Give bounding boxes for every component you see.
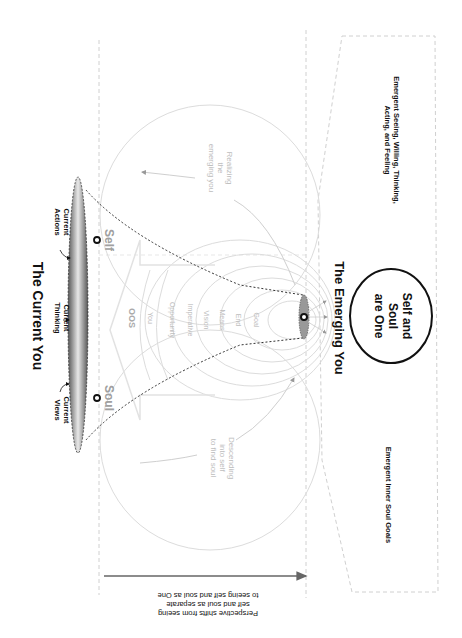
svg-text:You: You	[147, 312, 154, 324]
svg-text:Acting, and Feeling: Acting, and Feeling	[383, 105, 392, 175]
svg-text:Self and: Self and	[400, 293, 414, 340]
realizing-arrow	[142, 172, 195, 178]
inner-label-opportunity: Opportunity	[168, 302, 176, 339]
svg-text:Views: Views	[53, 399, 62, 420]
label-current-views: Current Views	[53, 396, 71, 424]
svg-text:OOS: OOS	[127, 308, 137, 328]
svg-text:Perspective shifts from seeing: Perspective shifts from seeing	[158, 609, 258, 618]
title-emerging-you: The Emerging You	[332, 261, 347, 375]
label-realizing: Realizing the emerging you	[207, 144, 234, 192]
svg-text:End: End	[235, 314, 242, 327]
svg-text:Self: Self	[102, 229, 116, 252]
emergent-bottom-label: Emergent Inner Soul Goals	[384, 447, 393, 543]
descending-arrow	[140, 455, 197, 463]
svg-text:The Current You: The Current You	[30, 262, 46, 370]
inner-label-vision: Vision	[203, 311, 210, 330]
actions-pointer-icon	[60, 250, 70, 258]
svg-text:Current: Current	[62, 396, 71, 424]
svg-text:Soul: Soul	[386, 303, 400, 329]
inner-label-end: End	[235, 314, 242, 327]
svg-text:Current: Current	[62, 304, 71, 332]
self-marker	[94, 237, 100, 243]
svg-text:emerging you: emerging you	[207, 144, 216, 192]
svg-text:are One: are One	[372, 294, 386, 339]
svg-text:Emergent Inner Soul Goals: Emergent Inner Soul Goals	[384, 447, 393, 543]
label-soul: Soul	[102, 385, 116, 411]
svg-text:into self: into self	[218, 444, 227, 472]
label-current-actions: Current Actions	[53, 208, 71, 236]
descending-arrow-lower	[236, 378, 294, 440]
label-current-thinking: Current Thinking	[53, 302, 71, 334]
svg-text:The Emerging You: The Emerging You	[332, 261, 347, 375]
svg-text:self and soul as separate: self and soul as separate	[166, 600, 249, 609]
label-descending: Descending into self to find soul	[209, 437, 236, 479]
label-self: Self	[102, 229, 116, 252]
svg-text:Current: Current	[62, 208, 71, 236]
svg-text:Opportunity: Opportunity	[168, 302, 176, 339]
u-process-diagram: The Current You Current Actions Current …	[0, 0, 462, 638]
svg-text:to find soul: to find soul	[209, 439, 218, 478]
svg-text:Vision: Vision	[203, 311, 210, 330]
svg-text:Thinking: Thinking	[53, 302, 62, 334]
inner-label-you: You	[147, 312, 154, 324]
svg-text:the: the	[216, 162, 225, 174]
inner-label-imperative: Imperative	[186, 304, 194, 337]
inner-label-goal: Goal	[253, 313, 260, 328]
emergent-top-label: Emergent Seeing, Willing, Thinking, Acti…	[383, 76, 401, 203]
svg-text:to seeing self and soul as One: to seeing self and soul as One	[158, 591, 259, 600]
svg-text:Soul: Soul	[102, 385, 116, 411]
soul-marker	[94, 395, 100, 401]
emerging-rays	[308, 301, 327, 333]
svg-text:Goal: Goal	[253, 313, 260, 328]
title-current-you: The Current You	[30, 262, 46, 370]
funnel-line-self	[86, 190, 303, 295]
inner-label-oos: OOS	[127, 308, 137, 328]
svg-text:Descending: Descending	[227, 437, 236, 479]
svg-text:Means: Means	[219, 309, 226, 331]
svg-text:Actions: Actions	[53, 208, 62, 236]
perspective-label: Perspective shifts from seeing self and …	[158, 591, 259, 618]
svg-text:Emergent Seeing, Willing, Thin: Emergent Seeing, Willing, Thinking,	[392, 76, 401, 203]
svg-text:Imperative: Imperative	[186, 304, 194, 337]
shift-arrow-outline	[110, 240, 215, 420]
emerging-center-dot	[301, 314, 307, 320]
svg-text:Realizing: Realizing	[225, 152, 234, 185]
inner-label-means: Means	[219, 309, 226, 331]
views-pointer-icon	[60, 384, 69, 392]
